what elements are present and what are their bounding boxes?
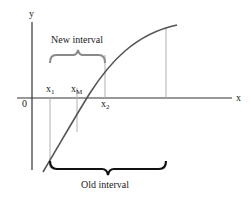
origin-label: 0 [22, 98, 27, 109]
new-interval-brace [50, 50, 105, 63]
y-axis-label: y [29, 8, 34, 19]
x-axis-label: x [236, 92, 241, 103]
diagram-canvas: y x 0 x1 xM x2 New interval Old interval [0, 0, 251, 200]
x1-label: x1 [46, 83, 55, 96]
old-interval-label: Old interval [81, 179, 129, 190]
old-interval-brace [50, 161, 166, 175]
x2-label: x2 [101, 98, 110, 111]
new-interval-label: New interval [51, 34, 103, 45]
xM-label: xM [71, 83, 83, 96]
